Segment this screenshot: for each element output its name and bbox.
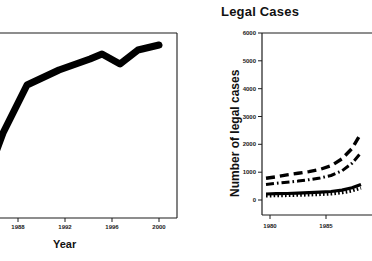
right-xtick-1980: 1980 <box>263 223 276 229</box>
left-xtick-1988: 1988 <box>11 224 24 230</box>
right-ytick-3000: 3000 <box>238 114 256 120</box>
right-ytick-0: 0 <box>238 197 256 203</box>
left-trend-line <box>0 45 159 152</box>
right-series-dashdot-middle <box>266 153 361 185</box>
right-panel-plot <box>186 0 372 240</box>
right-ytick-1000: 1000 <box>238 169 256 175</box>
left-x-ticks <box>18 218 159 222</box>
left-axis-title-x: Year <box>53 238 76 250</box>
right-panel-title: Legal Cases <box>221 4 299 19</box>
right-ytick-5000: 5000 <box>238 58 256 64</box>
right-panel: Legal Cases Number of legal cases <box>186 0 372 261</box>
right-ytick-4000: 4000 <box>238 86 256 92</box>
right-x-ticks <box>270 215 326 219</box>
right-ytick-6000: 6000 <box>238 30 256 36</box>
left-xtick-1996: 1996 <box>105 224 118 230</box>
left-panel-plot <box>0 0 186 240</box>
left-xtick-2000: 2000 <box>152 224 165 230</box>
right-series-dashed-upper <box>266 133 361 178</box>
right-xtick-1985: 1985 <box>319 223 332 229</box>
left-xtick-1992: 1992 <box>58 224 71 230</box>
figure-root: 1988 1992 1996 2000 Year Legal Cases Num… <box>0 0 372 261</box>
right-y-ticks <box>258 33 262 200</box>
right-ytick-2000: 2000 <box>238 141 256 147</box>
left-panel: 1988 1992 1996 2000 Year <box>0 0 186 261</box>
